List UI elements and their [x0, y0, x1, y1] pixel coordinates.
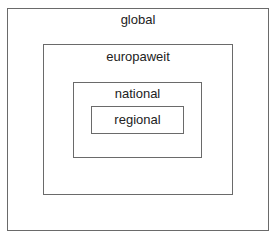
- regional-box: regional: [91, 106, 184, 134]
- europaweit-label: europaweit: [44, 49, 232, 64]
- regional-label: regional: [92, 112, 183, 127]
- global-label: global: [8, 12, 268, 27]
- national-label: national: [74, 86, 201, 101]
